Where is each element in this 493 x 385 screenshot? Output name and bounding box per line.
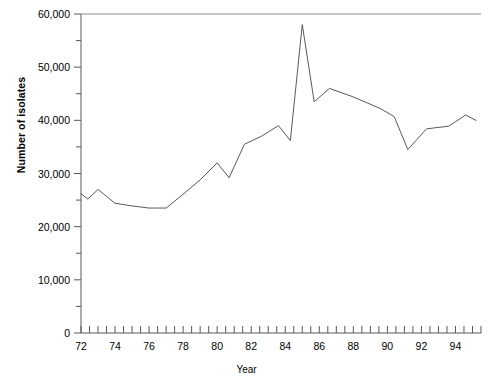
x-tick-label: 92 [416, 340, 428, 352]
x-tick-label: 80 [211, 340, 223, 352]
plot-area: 010,00020,00030,00040,00050,00060,000 72… [0, 0, 493, 385]
x-tick-mark-group [81, 326, 481, 333]
y-tick-label: 10,000 [38, 274, 70, 286]
y-tick-mark-group [74, 14, 81, 333]
y-tick-label: 20,000 [38, 221, 70, 233]
x-tick-label: 76 [143, 340, 155, 352]
x-tick-label: 78 [177, 340, 189, 352]
y-tick-label: 0 [64, 327, 70, 339]
data-series-line [81, 25, 476, 208]
y-tick-label: 30,000 [38, 168, 70, 180]
y-tick-label: 40,000 [38, 114, 70, 126]
x-tick-label: 90 [382, 340, 394, 352]
x-tick-label: 74 [109, 340, 121, 352]
y-tick-label: 60,000 [38, 8, 70, 20]
x-tick-label-group: 727476788082848688909294 [75, 340, 461, 352]
line-chart: Number of isolates Year 010,00020,00030,… [0, 0, 493, 385]
x-tick-label: 84 [279, 340, 291, 352]
x-tick-label: 82 [245, 340, 257, 352]
x-tick-label: 94 [450, 340, 462, 352]
y-tick-label-group: 010,00020,00030,00040,00050,00060,000 [38, 8, 70, 339]
x-tick-label: 88 [347, 340, 359, 352]
x-tick-label: 72 [75, 340, 87, 352]
y-tick-label: 50,000 [38, 61, 70, 73]
x-tick-label: 86 [313, 340, 325, 352]
